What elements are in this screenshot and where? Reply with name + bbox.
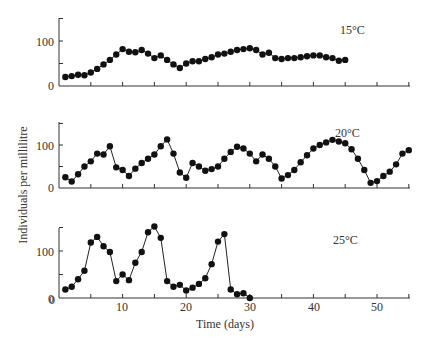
data-point: [393, 161, 399, 167]
data-point: [361, 167, 367, 173]
data-point: [151, 55, 157, 61]
panel-label-25c: 25°C: [333, 233, 358, 247]
data-point: [406, 147, 412, 153]
data-point: [291, 167, 297, 173]
data-point: [208, 166, 214, 172]
y-tick-0-p1: 0: [48, 79, 54, 93]
data-point: [151, 151, 157, 157]
data-point: [100, 151, 106, 157]
data-point: [151, 223, 157, 229]
data-point: [240, 290, 246, 296]
data-point: [119, 46, 125, 52]
data-point: [317, 52, 323, 58]
data-point: [310, 52, 316, 58]
data-point: [164, 57, 170, 63]
data-point: [304, 152, 310, 158]
data-point: [272, 163, 278, 169]
data-point: [164, 136, 170, 142]
data-point: [107, 57, 113, 63]
data-point: [291, 55, 297, 61]
data-point: [278, 56, 284, 62]
y-tick-0-p2: 0: [48, 181, 54, 195]
x-tick-40: 40: [308, 300, 320, 314]
data-point: [215, 51, 221, 57]
y-axis-label: Individuals per millilitre: [16, 126, 30, 243]
data-point: [297, 159, 303, 165]
data-point: [69, 178, 75, 184]
data-point: [240, 46, 246, 52]
data-point: [164, 278, 170, 284]
data-point: [215, 163, 221, 169]
data-point: [81, 163, 87, 169]
data-point: [228, 286, 234, 292]
data-point: [247, 150, 253, 156]
data-point: [247, 45, 253, 51]
data-point: [285, 55, 291, 61]
data-point: [132, 49, 138, 55]
data-point: [170, 284, 176, 290]
data-point: [145, 50, 151, 56]
data-point: [196, 163, 202, 169]
data-point: [310, 145, 316, 151]
data-point: [107, 143, 113, 149]
data-point: [285, 172, 291, 178]
temperature-population-chart: Individuals per millilitre 15°C 20°C 25°…: [0, 0, 429, 345]
data-point: [196, 58, 202, 64]
data-point: [189, 58, 195, 64]
x-axis-label: Time (days): [196, 317, 254, 331]
x-tick-20: 20: [180, 300, 192, 314]
series-line: [65, 48, 345, 77]
data-point: [240, 145, 246, 151]
data-point: [272, 55, 278, 61]
data-point: [158, 235, 164, 241]
data-point: [259, 51, 265, 57]
x-tick-30: 30: [244, 300, 256, 314]
data-point: [367, 180, 373, 186]
data-point: [113, 51, 119, 57]
data-point: [100, 61, 106, 67]
data-point: [138, 249, 144, 255]
data-point: [88, 69, 94, 75]
x-tick-10: 10: [116, 300, 128, 314]
data-point: [202, 168, 208, 174]
data-point: [208, 261, 214, 267]
data-point: [62, 174, 68, 180]
data-point: [158, 52, 164, 58]
data-point: [234, 291, 240, 297]
data-point: [208, 54, 214, 60]
data-point: [145, 229, 151, 235]
data-point: [317, 142, 323, 148]
data-point: [69, 284, 75, 290]
data-point: [126, 49, 132, 55]
data-point: [234, 47, 240, 53]
data-point: [94, 150, 100, 156]
data-point: [189, 160, 195, 166]
data-point: [69, 73, 75, 79]
data-point: [202, 275, 208, 281]
data-point: [62, 74, 68, 80]
data-point: [94, 234, 100, 240]
data-point: [215, 238, 221, 244]
data-point: [196, 281, 202, 287]
data-point: [81, 268, 87, 274]
data-point: [348, 146, 354, 152]
data-point: [170, 61, 176, 67]
data-point: [202, 56, 208, 62]
data-point: [374, 178, 380, 184]
data-point: [228, 49, 234, 55]
data-point: [158, 143, 164, 149]
data-point: [94, 66, 100, 72]
data-point: [221, 231, 227, 237]
data-point: [177, 65, 183, 71]
data-point: [81, 72, 87, 78]
x-tick-50: 50: [371, 300, 383, 314]
data-point: [113, 164, 119, 170]
data-point: [297, 54, 303, 60]
data-point: [183, 174, 189, 180]
y-tick-100-p3: 100: [36, 245, 54, 259]
x-tick-0: 0: [49, 293, 55, 307]
data-point: [189, 284, 195, 290]
data-point: [119, 271, 125, 277]
data-point: [126, 277, 132, 283]
y-tick-100-p2: 100: [36, 139, 54, 153]
